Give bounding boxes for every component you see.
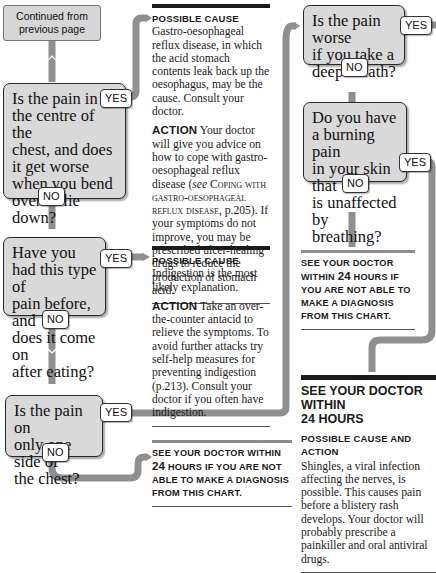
note-pre: See your doctor within — [152, 448, 281, 458]
question-line: the centre of the — [12, 107, 117, 141]
action-label: Action — [152, 300, 197, 312]
rule-top — [152, 246, 270, 250]
question-line: down? — [12, 209, 117, 226]
question-line: does it come on — [12, 329, 97, 363]
question-line: Do you have — [312, 109, 398, 126]
cause-label: Possible cause — [152, 13, 239, 24]
outcome-indigestion: Possible cause Indigestion is the most l… — [152, 246, 270, 427]
question-deep-breath: Is the pain worse if you take a deep bre… — [303, 5, 405, 65]
yes-tag-centre-chest[interactable]: YES — [100, 89, 132, 108]
see-doctor-note: See your doctor within 24 hours if you a… — [152, 447, 292, 500]
arrow-to-indigestion — [143, 253, 150, 261]
note-hours: 24 — [338, 270, 351, 282]
note-hours: 24 — [152, 460, 165, 472]
rule-bottom — [152, 506, 292, 507]
yes-tag-one-side[interactable]: YES — [100, 403, 132, 422]
continued-line-2: previous page — [4, 23, 100, 36]
question-line: it get worse — [12, 158, 117, 175]
cause-action-label: Possible cause and action — [301, 432, 436, 459]
question-line: Have you — [12, 244, 97, 261]
question-line: the chest? — [14, 470, 94, 487]
connector-q1-yes — [124, 18, 146, 97]
shingles-heading: SEE YOUR DOCTOR WITHIN 24 HOURS — [301, 384, 436, 426]
question-line: after eating? — [12, 363, 97, 380]
question-line: Is the pain worse — [312, 12, 396, 46]
outcome-see-doctor-bottom: See your doctor within 24 hours if you a… — [152, 440, 292, 507]
no-tag-burning-skin[interactable]: NO — [342, 174, 369, 193]
rule-top — [301, 375, 436, 380]
indigestion-cause: Possible cause Indigestion is the most l… — [152, 254, 270, 294]
arrow-to-q4 — [294, 22, 300, 30]
rule-bottom — [301, 329, 415, 330]
question-line: chest, and does — [12, 141, 117, 158]
cause-text: Indigestion is the most likely explanati… — [152, 267, 257, 293]
question-line: breathing? — [312, 228, 398, 245]
note-post: hours if you are not able to make a diag… — [152, 462, 289, 498]
shingles-text: Shingles, a viral infection affecting th… — [301, 460, 436, 566]
indigestion-action: Action Take an over-the-counter antacid … — [152, 300, 270, 420]
no-tag-centre-chest[interactable]: NO — [38, 187, 65, 206]
no-tag-one-side[interactable]: NO — [42, 443, 69, 462]
yes-tag-burning-skin[interactable]: YES — [399, 153, 431, 172]
no-tag-had-before[interactable]: NO — [42, 310, 69, 329]
rule-top — [152, 440, 292, 443]
see-text: see — [192, 178, 207, 191]
continued-line-1: Continued from — [4, 10, 100, 23]
question-burning-skin: Do you have a burning pain in your skin … — [303, 102, 407, 182]
yes-tag-had-before[interactable]: YES — [100, 249, 132, 268]
action-text: Take an over-the-counter antacid to reli… — [152, 300, 269, 419]
cause-label: Possible cause — [152, 255, 239, 266]
see-doctor-note: See your doctor within 24 hours if you a… — [301, 257, 415, 323]
outcome-shingles: SEE YOUR DOCTOR WITHIN 24 HOURS Possible… — [301, 375, 436, 573]
rule-top — [301, 250, 415, 253]
continued-from-previous-page[interactable]: Continued from previous page — [3, 5, 101, 41]
question-line: when you bend — [12, 175, 117, 192]
heading-line-2: 24 HOURS — [301, 412, 436, 426]
rule-top — [152, 4, 270, 8]
question-had-before: Have you had this type of pain before, a… — [3, 237, 106, 316]
heading-line-1: SEE YOUR DOCTOR WITHIN — [301, 384, 436, 412]
question-line: had this type of — [12, 261, 97, 295]
yes-tag-deep-breath[interactable]: YES — [400, 16, 432, 35]
outcome-see-doctor-right: See your doctor within 24 hours if you a… — [301, 250, 415, 330]
question-line: Is the pain on — [14, 402, 94, 436]
no-tag-deep-breath[interactable]: NO — [341, 58, 368, 77]
gerd-cause: Possible cause Gastro-oesophageal reflux… — [152, 12, 270, 118]
question-line: over or lie — [12, 192, 117, 209]
question-line: a burning pain — [312, 126, 398, 160]
question-line: is unaffected by — [312, 194, 398, 228]
cause-text: Gastro-oesophageal reflux disease, in wh… — [152, 25, 269, 118]
action-label: Action — [152, 124, 197, 136]
rule-bottom — [152, 426, 270, 427]
